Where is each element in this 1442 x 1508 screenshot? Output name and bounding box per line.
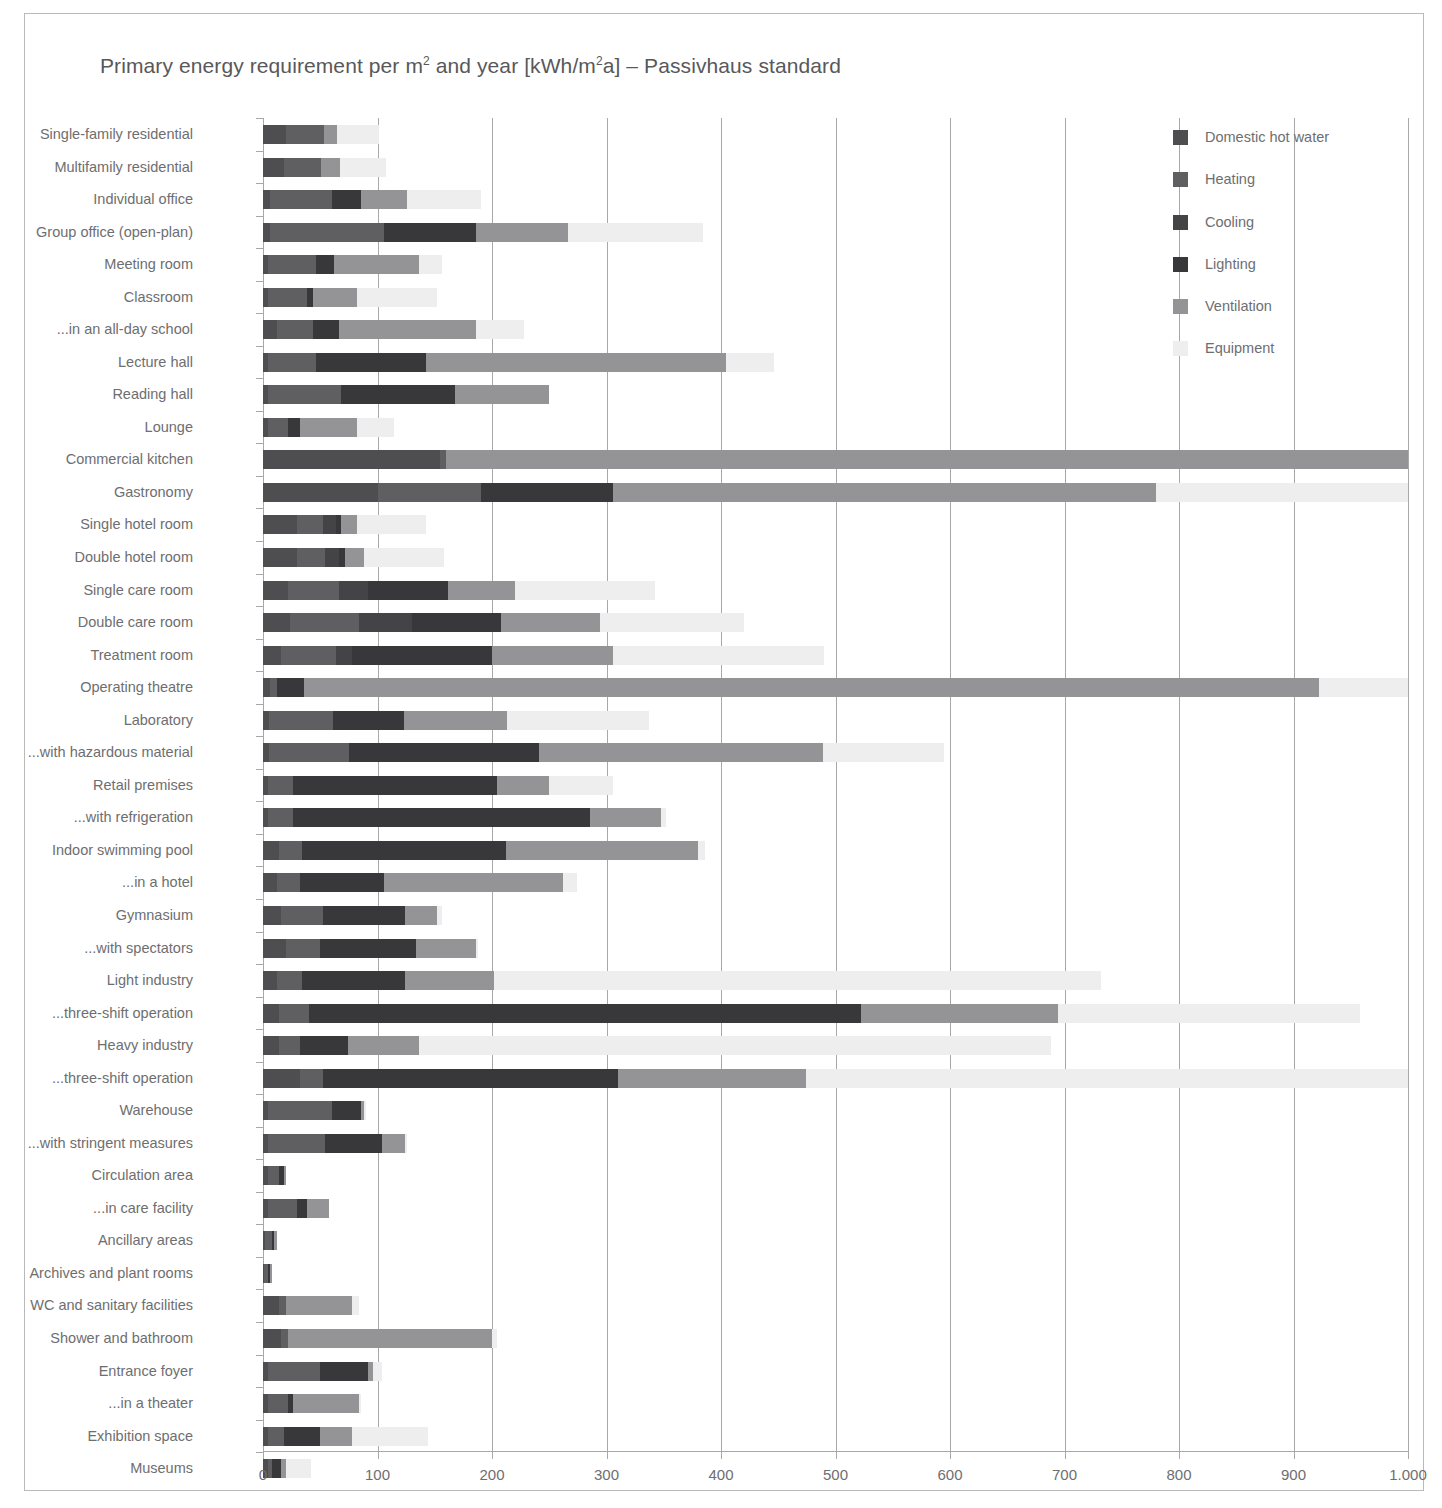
legend-label: Lighting — [1205, 253, 1256, 275]
bar-segment-domestic-hot-water — [263, 646, 281, 665]
y-axis-tick — [256, 671, 263, 672]
y-axis-tick — [256, 346, 263, 347]
y-axis-tick — [256, 183, 263, 184]
x-axis-tick — [1065, 1452, 1066, 1459]
x-axis-tick — [378, 1452, 379, 1459]
stacked-bar — [263, 1199, 329, 1218]
y-axis-tick — [256, 248, 263, 249]
y-axis-tick — [256, 281, 263, 282]
legend-item[interactable]: Ventilation — [1173, 295, 1403, 337]
stacked-bar — [263, 873, 577, 892]
stacked-bar — [263, 1166, 286, 1185]
chart-row: Laboratory — [263, 704, 1408, 737]
legend-item[interactable]: Cooling — [1173, 211, 1403, 253]
bar-segment-domestic-hot-water — [263, 613, 290, 632]
bar-segment-equipment — [437, 906, 442, 925]
bar-segment-ventilation — [476, 223, 568, 242]
stacked-bar — [263, 1069, 1408, 1088]
y-axis-tick — [256, 1289, 263, 1290]
category-label: Archives and plant rooms — [0, 1257, 193, 1290]
bar-segment-heating — [269, 743, 349, 762]
y-axis-tick — [256, 834, 263, 835]
y-axis-tick — [256, 866, 263, 867]
bar-segment-lighting — [316, 353, 426, 372]
bar-segment-heating — [268, 385, 341, 404]
legend-item[interactable]: Domestic hot water — [1173, 126, 1403, 168]
bar-segment-domestic-hot-water — [263, 450, 440, 469]
bar-segment-heating — [281, 1329, 288, 1348]
bar-segment-equipment — [1156, 483, 1408, 502]
bar-segment-heating — [265, 1231, 272, 1250]
y-axis-tick — [256, 151, 263, 152]
bar-segment-ventilation — [320, 1427, 352, 1446]
bar-segment-domestic-hot-water — [263, 320, 277, 339]
chart-row: Double hotel room — [263, 541, 1408, 574]
bar-segment-equipment — [340, 158, 386, 177]
x-axis-tick-label: 500 — [823, 1466, 848, 1483]
category-label: Treatment room — [0, 639, 193, 672]
stacked-bar — [263, 190, 481, 209]
chart-frame: Primary energy requirement per m2 and ye… — [24, 13, 1424, 1491]
bar-segment-lighting — [323, 1069, 618, 1088]
bar-segment-heating — [268, 418, 289, 437]
bar-segment-equipment — [405, 1134, 407, 1153]
bar-segment-domestic-hot-water — [263, 1296, 279, 1315]
y-axis-tick — [256, 1127, 263, 1128]
bar-segment-lighting — [302, 841, 506, 860]
category-label: WC and sanitary facilities — [0, 1289, 193, 1322]
category-label: Classroom — [0, 281, 193, 314]
bar-segment-equipment — [507, 711, 649, 730]
bar-segment-domestic-hot-water — [263, 515, 297, 534]
bar-segment-domestic-hot-water — [263, 1004, 279, 1023]
category-label: ...three-shift operation — [0, 997, 193, 1030]
stacked-bar — [263, 646, 824, 665]
legend-swatch-icon — [1173, 341, 1188, 356]
bar-segment-ventilation — [321, 158, 339, 177]
bar-segment-equipment — [1058, 1004, 1360, 1023]
y-axis-tick — [256, 736, 263, 737]
bar-segment-equipment — [698, 841, 705, 860]
bar-segment-domestic-hot-water — [263, 1069, 300, 1088]
bar-segment-equipment — [419, 255, 442, 274]
bar-segment-equipment — [419, 1036, 1051, 1055]
chart-row: ...with refrigeration — [263, 801, 1408, 834]
bar-segment-ventilation — [341, 515, 357, 534]
bar-segment-ventilation — [448, 581, 514, 600]
bar-segment-lighting — [293, 776, 497, 795]
bar-segment-equipment — [364, 548, 444, 567]
stacked-bar — [263, 1134, 407, 1153]
stacked-bar — [263, 255, 442, 274]
x-axis-tick-label: 200 — [479, 1466, 504, 1483]
bar-segment-heating — [270, 678, 277, 697]
title-superscript-2: 2 — [596, 54, 603, 68]
y-axis-tick — [256, 801, 263, 802]
chart-row: Ancillary areas — [263, 1224, 1408, 1257]
chart-row: Warehouse — [263, 1094, 1408, 1127]
category-label: Shower and bathroom — [0, 1322, 193, 1355]
stacked-bar — [263, 418, 394, 437]
chart-row: Entrance foyer — [263, 1355, 1408, 1388]
bar-segment-ventilation — [405, 971, 494, 990]
chart-row: Heavy industry — [263, 1029, 1408, 1062]
chart-row: WC and sanitary facilities — [263, 1289, 1408, 1322]
x-axis-tick — [836, 1452, 837, 1459]
bar-segment-heating — [277, 971, 302, 990]
chart-row: Indoor swimming pool — [263, 834, 1408, 867]
bar-segment-ventilation — [382, 1134, 405, 1153]
y-axis-tick — [256, 574, 263, 575]
category-label: Entrance foyer — [0, 1355, 193, 1388]
bar-segment-lighting — [320, 939, 416, 958]
chart-row: ...with stringent measures — [263, 1127, 1408, 1160]
stacked-bar — [263, 515, 426, 534]
legend-item[interactable]: Equipment — [1173, 337, 1403, 379]
bar-segment-heating — [279, 841, 302, 860]
y-axis-tick — [256, 704, 263, 705]
chart-row: Single hotel room — [263, 508, 1408, 541]
chart-row: ...three-shift operation — [263, 997, 1408, 1030]
stacked-bar — [263, 1296, 359, 1315]
category-label: Reading hall — [0, 378, 193, 411]
category-label: Single hotel room — [0, 508, 193, 541]
legend-item[interactable]: Lighting — [1173, 253, 1403, 295]
category-label: Retail premises — [0, 769, 193, 802]
legend-item[interactable]: Heating — [1173, 168, 1403, 210]
